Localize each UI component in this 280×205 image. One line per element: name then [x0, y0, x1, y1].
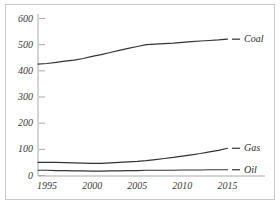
series-label-coal: Coal [244, 34, 263, 44]
y-tick-label: 300 [3, 92, 33, 102]
y-tick-marks [39, 19, 45, 176]
series-label-leaders [232, 39, 240, 170]
series-paths [38, 39, 227, 171]
series-label-gas: Gas [244, 143, 260, 153]
y-tick-label: 200 [3, 118, 33, 128]
x-tick-label: 2005 [115, 181, 159, 191]
y-tick-label: 600 [3, 14, 33, 24]
y-tick-label: 0 [3, 171, 33, 181]
x-tick-label: 2000 [70, 181, 114, 191]
series-line-gas [38, 148, 227, 163]
line-chart-canvas [0, 0, 280, 205]
x-tick-label: 2015 [205, 181, 249, 191]
axis-lines [38, 14, 265, 176]
series-line-coal [38, 39, 227, 64]
x-tick-label: 2010 [160, 181, 204, 191]
chart-figure: 0100200300400500600 19952000200520102015… [0, 0, 280, 205]
series-line-oil [38, 170, 227, 171]
y-tick-label: 400 [3, 66, 33, 76]
y-tick-label: 100 [3, 144, 33, 154]
x-tick-label: 1995 [25, 181, 69, 191]
y-tick-label: 500 [3, 40, 33, 50]
series-label-oil: Oil [244, 165, 257, 175]
